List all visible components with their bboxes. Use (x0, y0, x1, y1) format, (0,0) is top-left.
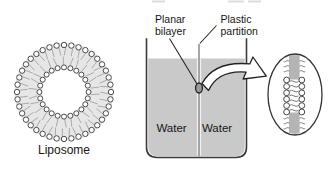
diagram-svg: Liposome Water Water Planar bilayer Plas… (0, 0, 331, 170)
liposome-diagram: Liposome (14, 42, 113, 157)
plastic-partition-label-line2: partition (221, 25, 259, 37)
planar-bilayer-label-line2: bilayer (155, 25, 186, 37)
water-right-label: Water (202, 122, 232, 134)
planar-bilayer-spot (196, 83, 203, 93)
water-left-label: Water (156, 122, 186, 134)
cropped-text-remnant (152, 1, 165, 3)
cropped-text-remnant (248, 1, 261, 3)
planar-bilayer-label-line1: Planar (155, 13, 186, 25)
cropped-text-remnants (152, 1, 261, 3)
plastic-partition-leader-line (200, 26, 217, 44)
liposome-label: Liposome (38, 143, 90, 157)
figure-canvas: Liposome Water Water Planar bilayer Plas… (0, 0, 331, 170)
magnified-bilayer-view (268, 53, 322, 136)
plastic-partition-label-line1: Plastic (221, 13, 252, 25)
water-chamber: Water Water (147, 39, 247, 158)
cropped-text-remnant (228, 1, 244, 3)
